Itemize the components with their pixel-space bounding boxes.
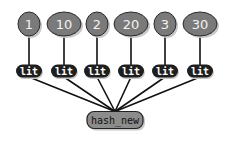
value-node: 1	[18, 12, 42, 38]
lit-label: lit	[88, 66, 106, 77]
value-label: 3	[161, 17, 169, 32]
lit-node: lit	[16, 65, 43, 80]
value-node: 2	[86, 12, 110, 38]
value-label: 20	[123, 17, 140, 32]
value-label: 2	[93, 17, 101, 32]
value-node: 10	[47, 12, 83, 38]
value-node: 30	[183, 12, 219, 38]
value-node: 3	[154, 12, 178, 38]
lit-node: lit	[152, 65, 179, 80]
lit-node: lit	[187, 65, 214, 80]
lit-label: lit	[191, 66, 209, 77]
lit-node: lit	[84, 65, 111, 80]
value-label: 1	[25, 17, 33, 32]
lit-node: lit	[118, 65, 145, 80]
root-label: hash_new	[91, 115, 140, 127]
value-node: 20	[114, 12, 150, 38]
lit-node: lit	[51, 65, 78, 80]
lit-label: lit	[156, 66, 174, 77]
lit-label: lit	[55, 66, 73, 77]
root-node-hash-new: hash_new	[87, 112, 145, 131]
lit-label: lit	[20, 66, 38, 77]
value-label: 30	[192, 17, 209, 32]
value-label: 10	[56, 17, 73, 32]
nodes: 1lit10lit2lit20lit3lit30lithash_new	[16, 12, 219, 131]
tree-diagram: 1lit10lit2lit20lit3lit30lithash_new	[0, 0, 233, 142]
lit-label: lit	[122, 66, 140, 77]
